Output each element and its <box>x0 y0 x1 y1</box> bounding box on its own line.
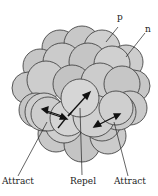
attract-right-label: Attract <box>114 176 146 186</box>
nucleus-diagram <box>0 0 158 196</box>
attract-left-label: Attract <box>2 176 34 186</box>
neutron-label: n <box>145 24 151 34</box>
repel-label: Repel <box>70 176 96 186</box>
proton-label: p <box>117 12 123 22</box>
